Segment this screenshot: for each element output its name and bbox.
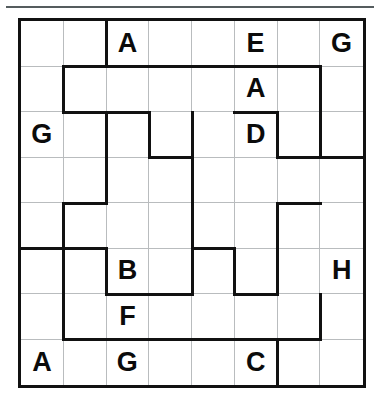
grid-cell-r6c1[interactable] xyxy=(21,249,64,295)
cell-letter: G xyxy=(31,121,52,148)
cell-letter: A xyxy=(118,30,138,57)
grid-cell-r3c1[interactable]: G xyxy=(21,112,64,158)
grid-cell-r5c7[interactable] xyxy=(278,203,321,249)
grid-cell-r8c4[interactable] xyxy=(149,340,192,386)
grid-cell-r6c4[interactable] xyxy=(149,249,192,295)
grid-cell-r7c8[interactable] xyxy=(320,294,363,340)
grid-cell-r2c4[interactable] xyxy=(149,67,192,113)
grid-cell-r3c8[interactable] xyxy=(320,112,363,158)
cell-letter: H xyxy=(332,257,352,284)
grid-cell-r5c6[interactable] xyxy=(235,203,278,249)
grid-cell-r3c3[interactable] xyxy=(107,112,150,158)
grid-cell-r1c2[interactable] xyxy=(64,21,107,67)
grid-cell-r4c1[interactable] xyxy=(21,158,64,204)
grid-cell-r4c7[interactable] xyxy=(278,158,321,204)
grid-cell-r2c5[interactable] xyxy=(192,67,235,113)
grid-cell-r7c1[interactable] xyxy=(21,294,64,340)
grid-cell-r4c2[interactable] xyxy=(64,158,107,204)
grid-cell-r2c3[interactable] xyxy=(107,67,150,113)
grid-cell-r1c1[interactable] xyxy=(21,21,64,67)
cell-letter: G xyxy=(117,349,138,376)
grid-cell-r7c2[interactable] xyxy=(64,294,107,340)
grid-cell-r7c5[interactable] xyxy=(192,294,235,340)
grid-cell-r3c2[interactable] xyxy=(64,112,107,158)
grid-cell-r2c6[interactable]: A xyxy=(235,67,278,113)
grid-cell-r7c7[interactable] xyxy=(278,294,321,340)
grid-cell-r2c7[interactable] xyxy=(278,67,321,113)
grid-cell-r8c2[interactable] xyxy=(64,340,107,386)
grid-cell-r1c5[interactable] xyxy=(192,21,235,67)
top-divider-rule xyxy=(6,6,374,8)
cell-letter: A xyxy=(32,349,52,376)
grid-cell-r2c2[interactable] xyxy=(64,67,107,113)
grid-cell-r8c8[interactable] xyxy=(320,340,363,386)
grid-cell-r6c3[interactable]: B xyxy=(107,249,150,295)
cell-letter: E xyxy=(247,30,265,57)
grid-cell-r1c8[interactable]: G xyxy=(320,21,363,67)
grid-cell-r4c3[interactable] xyxy=(107,158,150,204)
grid-cell-r3c5[interactable] xyxy=(192,112,235,158)
grid-cell-r1c6[interactable]: E xyxy=(235,21,278,67)
grid-cell-r3c6[interactable]: D xyxy=(235,112,278,158)
grid-cell-r2c1[interactable] xyxy=(21,67,64,113)
grid-cell-r3c7[interactable] xyxy=(278,112,321,158)
grid-cell-r6c6[interactable] xyxy=(235,249,278,295)
grid-cell-r5c2[interactable] xyxy=(64,203,107,249)
grid-cell-r8c1[interactable]: A xyxy=(21,340,64,386)
grid-cell-r5c4[interactable] xyxy=(149,203,192,249)
grid-cell-r2c8[interactable] xyxy=(320,67,363,113)
cell-letter: A xyxy=(246,75,266,102)
grid-cell-r5c8[interactable] xyxy=(320,203,363,249)
grid-cell-r7c4[interactable] xyxy=(149,294,192,340)
cell-letter: C xyxy=(246,349,266,376)
grid-cell-r7c6[interactable] xyxy=(235,294,278,340)
grid-cell-r4c5[interactable] xyxy=(192,158,235,204)
grid-cell-r8c3[interactable]: G xyxy=(107,340,150,386)
grid-cell-r8c7[interactable] xyxy=(278,340,321,386)
grid-cell-r6c2[interactable] xyxy=(64,249,107,295)
grid-cell-r4c6[interactable] xyxy=(235,158,278,204)
puzzle-container: AEGAGDBHFAGC xyxy=(21,21,363,385)
cell-letter: G xyxy=(331,30,352,57)
puzzle-grid[interactable]: AEGAGDBHFAGC xyxy=(21,21,363,385)
grid-cell-r4c8[interactable] xyxy=(320,158,363,204)
cell-letter: F xyxy=(119,303,136,330)
grid-cell-r6c5[interactable] xyxy=(192,249,235,295)
grid-cell-r5c3[interactable] xyxy=(107,203,150,249)
cell-letter: D xyxy=(246,121,266,148)
grid-cell-r7c3[interactable]: F xyxy=(107,294,150,340)
cell-letter: B xyxy=(118,257,138,284)
grid-cell-r5c5[interactable] xyxy=(192,203,235,249)
grid-cell-r1c4[interactable] xyxy=(149,21,192,67)
grid-cell-r1c7[interactable] xyxy=(278,21,321,67)
grid-cell-r3c4[interactable] xyxy=(149,112,192,158)
grid-cell-r8c5[interactable] xyxy=(192,340,235,386)
grid-cell-r6c8[interactable]: H xyxy=(320,249,363,295)
grid-cell-r4c4[interactable] xyxy=(149,158,192,204)
grid-cell-r6c7[interactable] xyxy=(278,249,321,295)
grid-cell-r5c1[interactable] xyxy=(21,203,64,249)
grid-cell-r8c6[interactable]: C xyxy=(235,340,278,386)
grid-cell-r1c3[interactable]: A xyxy=(107,21,150,67)
